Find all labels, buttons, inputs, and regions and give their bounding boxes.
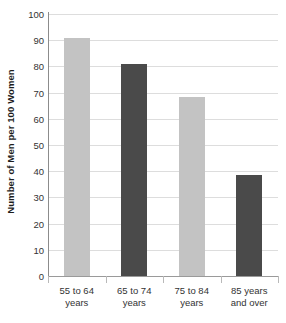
y-axis-tick-label: 10 xyxy=(33,244,44,255)
bar-slot xyxy=(221,14,279,276)
bar-series xyxy=(48,14,278,276)
bar-chart: Number of Men per 100 Women 100908070605… xyxy=(0,0,286,323)
y-axis-title-label: Number of Men per 100 Women xyxy=(5,69,16,214)
y-axis-tick-label: 20 xyxy=(33,218,44,229)
category-separator-tick xyxy=(221,276,222,283)
y-axis-tick-label: 80 xyxy=(33,61,44,72)
x-axis-tick-labels: 55 to 64years65 to 74years75 to 84years8… xyxy=(48,285,278,319)
y-axis-tick-label: 70 xyxy=(33,87,44,98)
category-separator-tick xyxy=(163,276,164,283)
y-axis-tick-labels: 1009080706050403020100 xyxy=(20,14,47,276)
bar[interactable] xyxy=(179,97,205,276)
x-axis-tick-label: 55 to 64years xyxy=(48,285,106,319)
x-axis-tick-label: 65 to 74years xyxy=(106,285,164,319)
x-axis-tick-label-line2: years xyxy=(106,297,164,309)
bar-slot xyxy=(106,14,164,276)
x-axis-tick-label-line2: and over xyxy=(221,297,279,309)
bar[interactable] xyxy=(121,64,147,276)
bar[interactable] xyxy=(64,38,90,276)
y-axis-title: Number of Men per 100 Women xyxy=(0,0,20,283)
y-axis-tick-label: 100 xyxy=(28,9,44,20)
bar[interactable] xyxy=(236,175,262,276)
category-separator-tick xyxy=(48,276,49,283)
category-separator-ticks xyxy=(48,276,278,283)
x-axis-tick-label-line1: 65 to 74 xyxy=(117,285,151,296)
x-axis-tick-label-line1: 55 to 64 xyxy=(60,285,94,296)
y-axis-tick-label: 50 xyxy=(33,140,44,151)
bar-slot xyxy=(163,14,221,276)
category-separator-tick xyxy=(106,276,107,283)
plot-area xyxy=(48,14,278,276)
y-axis-tick-label: 30 xyxy=(33,192,44,203)
y-axis-tick-label: 40 xyxy=(33,166,44,177)
x-axis-tick-label-line1: 85 years xyxy=(231,285,267,296)
y-axis-tick-label: 90 xyxy=(33,35,44,46)
x-axis-tick-label: 75 to 84years xyxy=(163,285,221,319)
category-separator-tick xyxy=(278,276,279,283)
x-axis-tick-label-line2: years xyxy=(163,297,221,309)
x-axis-tick-label-line1: 75 to 84 xyxy=(175,285,209,296)
y-axis-tick-label: 0 xyxy=(39,271,44,282)
y-axis-tick-label: 60 xyxy=(33,113,44,124)
bar-slot xyxy=(48,14,106,276)
x-axis-tick-label-line2: years xyxy=(48,297,106,309)
x-axis-tick-label: 85 yearsand over xyxy=(221,285,279,319)
